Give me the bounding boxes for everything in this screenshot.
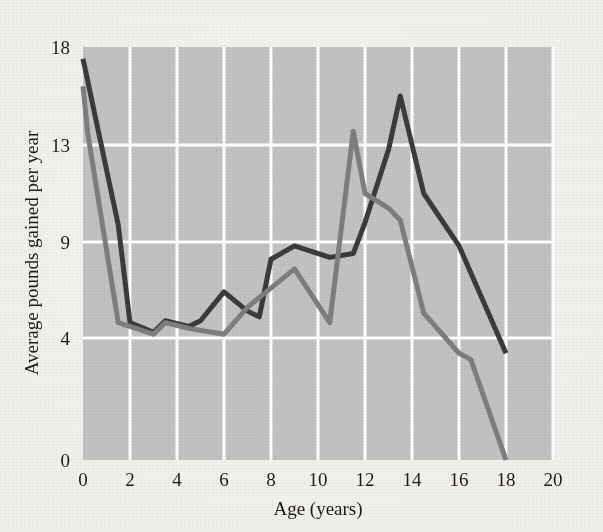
- x-tick-label: 14: [403, 469, 423, 490]
- y-tick-label: 0: [61, 450, 71, 471]
- figure-line-chart: 02468101214161820 0491318 Age (years) Av…: [0, 0, 603, 532]
- x-tick-label: 4: [172, 469, 182, 490]
- x-axis-tick-labels: 02468101214161820: [78, 469, 562, 490]
- y-tick-label: 13: [51, 135, 70, 156]
- x-tick-label: 6: [219, 469, 229, 490]
- x-tick-label: 8: [266, 469, 276, 490]
- x-tick-label: 18: [497, 469, 516, 490]
- x-tick-label: 12: [356, 469, 375, 490]
- y-axis-tick-labels: 0491318: [51, 37, 71, 471]
- x-tick-label: 16: [450, 469, 469, 490]
- x-tick-label: 0: [78, 469, 88, 490]
- x-tick-label: 10: [309, 469, 328, 490]
- y-axis-title: Average pounds gained per year: [21, 130, 42, 375]
- x-tick-label: 20: [544, 469, 563, 490]
- y-tick-label: 4: [61, 328, 71, 349]
- x-axis-title: Age (years): [273, 498, 362, 520]
- y-tick-label: 9: [61, 232, 71, 253]
- x-tick-label: 2: [125, 469, 135, 490]
- chart-canvas: 02468101214161820 0491318 Age (years) Av…: [0, 0, 603, 532]
- y-tick-label: 18: [51, 37, 70, 58]
